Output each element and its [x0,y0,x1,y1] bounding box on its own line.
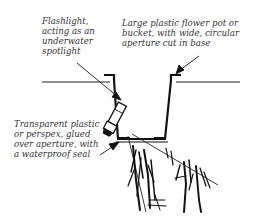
flashlight-label: Flashlight, acting as an underwater spot… [42,16,95,56]
transparent-panel-label: Transparent plastic or perspex, glued ov… [14,119,99,159]
diagram-canvas: Flashlight, acting as an underwater spot… [0,0,256,218]
flower-pot-label: Large plastic flower pot or bucket, with… [122,18,239,48]
flashlight [101,102,127,138]
